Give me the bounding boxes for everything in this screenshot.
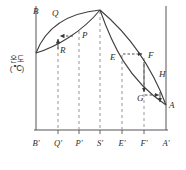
y-axis-title: 온도 (℃) (10, 55, 24, 73)
y-axis-title-line1: 온도 (10, 55, 24, 64)
tick-label-e-prime: E′ (118, 139, 125, 148)
tick-label-b-prime: B′ (32, 139, 39, 148)
point-label-B: B (33, 7, 39, 16)
point-label-A: A (169, 101, 175, 110)
point-label-R: R (60, 46, 66, 55)
curve-upper-left (36, 10, 100, 53)
point-label-G: G (137, 94, 144, 103)
curve-lower-left (36, 10, 100, 53)
y-axis-title-line2: (℃) (10, 64, 24, 73)
point-label-P: P (82, 31, 88, 40)
point-label-Q: Q (52, 9, 59, 18)
tick-label-q-prime: Q′ (54, 139, 62, 148)
point-label-E: E (110, 53, 116, 62)
tick-label-p-prime: P′ (75, 139, 82, 148)
tick-label-a-prime: A′ (162, 139, 169, 148)
diagram-canvas (0, 0, 186, 170)
point-label-H: H (159, 70, 166, 79)
tick-label-f-prime: F′ (140, 139, 147, 148)
point-label-F: F (148, 51, 154, 60)
temperature-diagram-figure: 온도 (℃) B Q P R E F H G A B′ Q′ P′ S′ E′ … (0, 0, 186, 170)
tick-label-s-prime: S′ (97, 139, 103, 148)
